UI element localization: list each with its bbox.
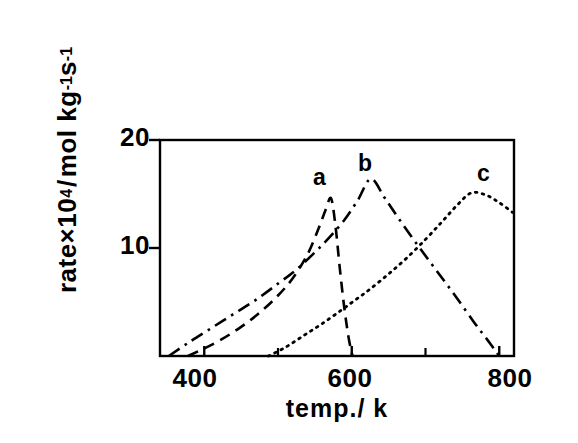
y-axis-label-exponent-s: -1 bbox=[58, 47, 76, 61]
y-axis-label: rate×104/mol kg-1s-1 bbox=[47, 20, 87, 320]
y-axis-label-unit-s: s bbox=[52, 61, 83, 76]
y-axis-label-exponent-4: 4 bbox=[58, 189, 76, 198]
y-tick-label-20: 20 bbox=[88, 122, 150, 153]
chart-figure: rate×104/mol kg-1s-1 20 10 400 600 800 t… bbox=[0, 0, 578, 443]
y-axis-label-exponent-kg: -1 bbox=[58, 76, 76, 90]
curve-label-b: b bbox=[358, 152, 372, 175]
y-tick-label-10: 10 bbox=[88, 230, 150, 261]
y-axis-label-prefix: rate×10 bbox=[52, 198, 83, 293]
x-tick-label-800: 800 bbox=[470, 363, 550, 394]
x-axis-label: temp./ k bbox=[160, 394, 514, 423]
x-tick-label-600: 600 bbox=[310, 363, 390, 394]
curve-label-c: c bbox=[477, 162, 490, 185]
curve-label-a: a bbox=[313, 166, 326, 189]
data-curves bbox=[169, 179, 513, 356]
y-axis-label-slash: / bbox=[52, 177, 83, 189]
x-tick-label-400: 400 bbox=[155, 363, 235, 394]
y-axis-label-units: mol kg bbox=[52, 90, 83, 177]
